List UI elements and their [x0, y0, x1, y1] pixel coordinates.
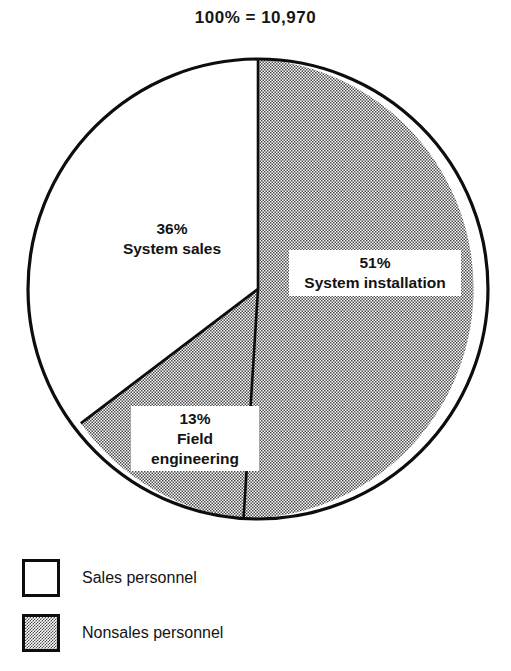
slice-percent-system-sales: 36% [102, 219, 242, 239]
pie-chart: 36% System sales 51% System installation… [0, 0, 511, 545]
legend-item-nonsales-personnel: Nonsales personnel [22, 605, 492, 660]
slice-name-system-sales: System sales [102, 239, 242, 259]
slice-label-field-engineering: 13% Fieldengineering [131, 406, 259, 471]
legend-item-sales-personnel: Sales personnel [22, 550, 492, 605]
slice-name-field-engineering: Fieldengineering [137, 429, 253, 469]
chart-legend: Sales personnel Nonsales personnel [22, 550, 492, 660]
legend-swatch-nonsales-personnel [22, 614, 60, 652]
legend-label-nonsales-personnel: Nonsales personnel [82, 624, 223, 642]
slice-percent-field-engineering: 13% [137, 409, 253, 429]
slice-label-system-installation: 51% System installation [289, 250, 461, 296]
legend-label-sales-personnel: Sales personnel [82, 569, 197, 587]
legend-swatch-sales-personnel [22, 559, 60, 597]
slice-name-system-installation: System installation [295, 273, 455, 293]
slice-label-system-sales: 36% System sales [96, 216, 248, 262]
slice-percent-system-installation: 51% [295, 253, 455, 273]
